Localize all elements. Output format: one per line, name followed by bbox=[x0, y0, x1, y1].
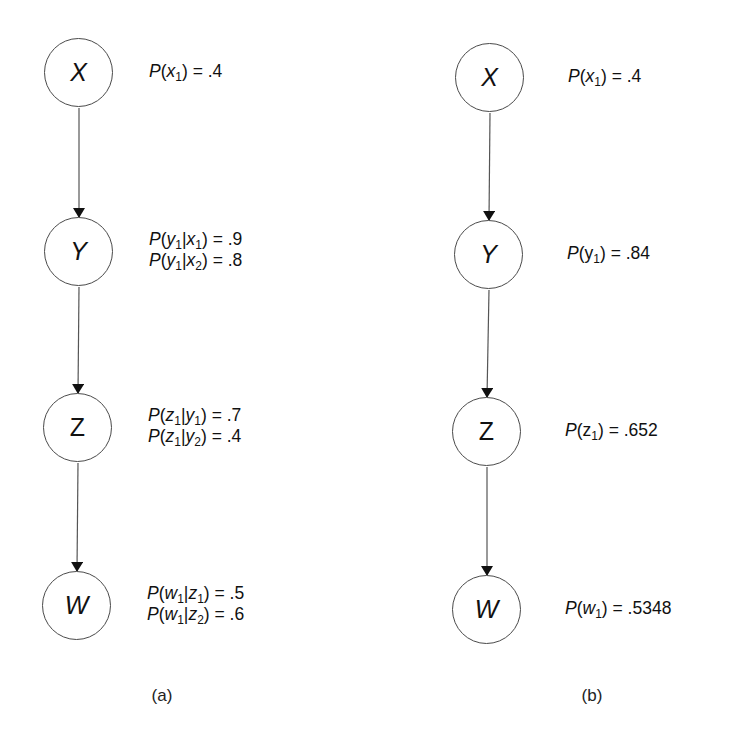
probability-line: P(x1) = .4 bbox=[568, 66, 641, 87]
probability-label-y-b: P(y1) = .84 bbox=[567, 243, 650, 264]
edge-y-to-z-arrow bbox=[78, 287, 79, 393]
probability-label-x-b: P(x1) = .4 bbox=[568, 66, 641, 87]
node-z-b: Z bbox=[452, 397, 521, 466]
caption-a: (a) bbox=[152, 686, 173, 706]
probability-line: P(z1|y1) = .7 bbox=[148, 405, 241, 426]
node-z-a: Z bbox=[43, 393, 112, 462]
node-w-b: W bbox=[452, 575, 521, 644]
node-y-a: Y bbox=[44, 217, 113, 286]
probability-line: P(x1) = .4 bbox=[149, 61, 222, 82]
node-label: Y bbox=[70, 239, 87, 264]
probability-label-y-a: P(y1|x1) = .9P(y1|x2) = .8 bbox=[149, 229, 242, 271]
node-x-a: X bbox=[44, 38, 113, 107]
edge-y-to-z-arrow bbox=[487, 290, 489, 397]
edge-x-to-y-arrow bbox=[489, 113, 490, 220]
edges-layer bbox=[0, 0, 734, 746]
node-y-b: Y bbox=[454, 220, 523, 289]
caption-b: (b) bbox=[582, 686, 603, 706]
probability-label-w-a: P(w1|z1) = .5P(w1|z2) = .6 bbox=[147, 583, 244, 625]
node-x-b: X bbox=[455, 43, 524, 112]
node-label: Y bbox=[480, 242, 497, 267]
node-label: W bbox=[475, 597, 499, 622]
node-w-a: W bbox=[42, 571, 111, 640]
node-label: Z bbox=[479, 419, 494, 444]
probability-line: P(z1|y2) = .4 bbox=[148, 426, 241, 447]
edge-z-to-w-arrow bbox=[77, 463, 78, 571]
probability-line: P(y1) = .84 bbox=[567, 243, 650, 264]
probability-line: P(w1|z1) = .5 bbox=[147, 583, 244, 604]
node-label: X bbox=[481, 65, 498, 90]
node-label: Z bbox=[70, 415, 85, 440]
probability-label-w-b: P(w1) = .5348 bbox=[565, 598, 671, 619]
node-label: X bbox=[70, 60, 87, 85]
probability-label-z-a: P(z1|y1) = .7P(z1|y2) = .4 bbox=[148, 405, 241, 447]
probability-label-x-a: P(x1) = .4 bbox=[149, 61, 222, 82]
probability-line: P(w1) = .5348 bbox=[565, 598, 671, 619]
probability-line: P(z1) = .652 bbox=[565, 420, 658, 441]
node-label: W bbox=[65, 593, 89, 618]
probability-line: P(w1|z2) = .6 bbox=[147, 604, 244, 625]
probability-line: P(y1|x1) = .9 bbox=[149, 229, 242, 250]
probability-label-z-b: P(z1) = .652 bbox=[565, 420, 658, 441]
probability-line: P(y1|x2) = .8 bbox=[149, 250, 242, 271]
